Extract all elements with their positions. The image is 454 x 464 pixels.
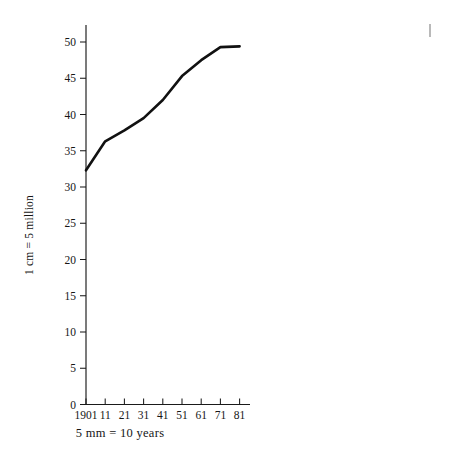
y-tick-label: 40 [65,109,77,121]
x-tick-label: 41 [157,409,169,421]
y-tick-label: 25 [65,217,77,229]
y-tick-label: 15 [65,290,77,302]
x-tick-label: 31 [138,409,150,421]
x-tick-group: 19011121314151617181 [75,399,246,421]
y-tick-label: 50 [65,36,77,48]
pencil-tick-mark [429,24,431,37]
y-tick-label: 10 [65,326,77,338]
y-tick-label: 45 [65,72,77,84]
y-tick-label: 35 [65,145,77,157]
x-tick-label: 51 [176,409,188,421]
y-axis-label: 1 cm = 5 million [23,195,35,275]
y-tick-group: 05101520253035404550 [65,36,87,411]
x-tick-label: 1901 [75,409,98,421]
y-axis-label-wrapper: 1 cm = 5 million [18,170,40,300]
x-axis-caption: 5 mm = 10 years [0,426,240,441]
x-tick-label: 61 [195,409,207,421]
x-tick-label: 21 [119,409,131,421]
y-tick-label: 5 [70,362,76,374]
y-tick-label: 20 [65,254,77,266]
x-tick-label: 11 [100,409,111,421]
x-tick-label: 81 [234,409,246,421]
line-chart-canvas: 05101520253035404550 1901112131415161718… [0,0,454,464]
x-tick-label: 71 [215,409,227,421]
chart-figure: 05101520253035404550 1901112131415161718… [0,0,454,464]
data-series-line [86,46,240,170]
y-tick-label: 30 [65,181,77,193]
